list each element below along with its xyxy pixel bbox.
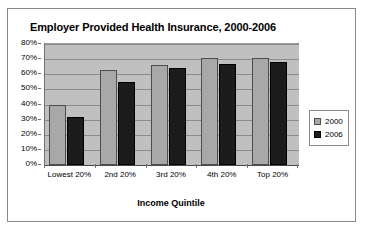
x-axis-title: Income Quintile <box>44 198 298 208</box>
y-axis-tick-mark <box>38 58 41 59</box>
y-axis-tick-mark <box>38 119 41 120</box>
chart-container: Employer Provided Health Insurance, 2000… <box>7 8 356 222</box>
bar-2006-3rd-20-[interactable] <box>169 68 186 165</box>
y-axis-tick-mark <box>38 134 41 135</box>
chart-title: Employer Provided Health Insurance, 2000… <box>8 21 298 33</box>
legend-swatch-icon <box>314 131 321 138</box>
y-axis-tick-mark <box>38 164 41 165</box>
y-axis: 80%70%60%50%40%30%20%10%0% <box>8 43 41 164</box>
bar-2000-2nd-20-[interactable] <box>100 70 117 165</box>
legend-label: 2000 <box>325 117 343 126</box>
y-axis-tick-label: 40% <box>21 100 37 108</box>
bar-2000-3rd-20-[interactable] <box>151 65 168 165</box>
y-axis-tick-label: 0% <box>25 160 37 168</box>
legend-item[interactable]: 2000 <box>314 115 343 128</box>
bar-group <box>147 44 198 165</box>
bar-2000-4th-20-[interactable] <box>201 58 218 165</box>
x-axis-category-labels: Lowest 20%2nd 20%3rd 20%4th 20%Top 20% <box>44 170 298 196</box>
x-axis-category-label: Lowest 20% <box>44 170 95 180</box>
x-axis-tick-mark <box>95 164 96 168</box>
bar-group <box>248 44 299 165</box>
bar-group <box>96 44 147 165</box>
legend-label: 2006 <box>325 130 343 139</box>
y-axis-tick-label: 80% <box>21 39 37 47</box>
y-axis-tick-mark <box>38 43 41 44</box>
y-axis-tick-mark <box>38 88 41 89</box>
bars-layer <box>45 44 299 165</box>
bar-2006-2nd-20-[interactable] <box>118 82 135 165</box>
plot-area <box>44 43 299 165</box>
y-axis-tick-mark <box>38 104 41 105</box>
chart-legend: 20002006 <box>309 110 349 146</box>
y-axis-tick-label: 70% <box>21 54 37 62</box>
legend-item[interactable]: 2006 <box>314 128 343 141</box>
bar-2006-top-20-[interactable] <box>270 62 287 165</box>
x-axis-category-label: 4th 20% <box>196 170 247 180</box>
x-axis-category-label: 3rd 20% <box>146 170 197 180</box>
y-axis-tick-mark <box>38 73 41 74</box>
y-axis-tick-label: 50% <box>21 84 37 92</box>
bar-group <box>197 44 248 165</box>
bar-2000-lowest-20-[interactable] <box>49 105 66 166</box>
x-axis-tick-mark <box>247 164 248 168</box>
y-axis-tick-label: 60% <box>21 69 37 77</box>
y-axis-tick-mark <box>38 149 41 150</box>
x-axis-tick-mark <box>297 164 298 168</box>
x-axis-tick-mark <box>146 164 147 168</box>
bar-2006-4th-20-[interactable] <box>219 64 236 165</box>
x-axis-tick-mark <box>196 164 197 168</box>
bar-2006-lowest-20-[interactable] <box>67 117 84 165</box>
x-axis-ticks <box>44 164 298 168</box>
x-axis-category-label: 2nd 20% <box>95 170 146 180</box>
x-axis-category-label: Top 20% <box>247 170 298 180</box>
bar-2000-top-20-[interactable] <box>252 58 269 165</box>
bar-group <box>45 44 96 165</box>
y-axis-tick-label: 10% <box>21 145 37 153</box>
y-axis-tick-label: 30% <box>21 115 37 123</box>
x-axis-tick-mark <box>44 164 45 168</box>
y-axis-tick-label: 20% <box>21 130 37 138</box>
legend-swatch-icon <box>314 118 321 125</box>
